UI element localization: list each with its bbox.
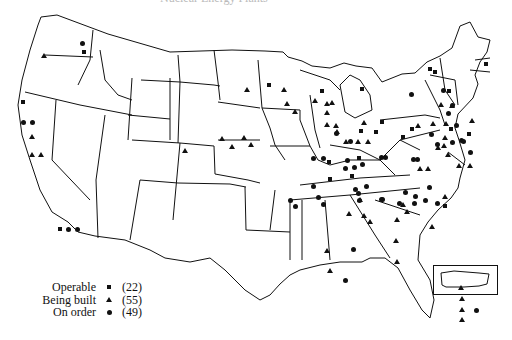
operable-marker: [328, 177, 332, 181]
operable-marker: [443, 204, 447, 208]
on-order-marker: [423, 198, 428, 203]
being-built-marker: [459, 296, 465, 301]
on-order-marker: [343, 278, 348, 283]
on-order-marker: [311, 156, 316, 161]
being-built-marker: [438, 102, 444, 107]
being-built-marker: [312, 98, 318, 103]
on-order-marker: [288, 198, 293, 203]
operable-marker: [327, 160, 331, 164]
on-order-marker: [75, 227, 80, 232]
on-order-marker: [357, 198, 362, 203]
on-order-marker: [413, 194, 418, 199]
legend-label: On order: [28, 306, 96, 319]
on-order-marker: [474, 308, 479, 313]
being-built-marker: [393, 238, 399, 243]
nuclear-plants-map: Nuclear Energy Plants: [0, 0, 512, 340]
on-order-marker: [334, 131, 339, 136]
operable-marker: [447, 89, 451, 93]
on-order-marker: [316, 195, 321, 200]
operable-marker: [433, 70, 437, 74]
being-built-marker: [442, 135, 448, 140]
being-built-marker: [229, 144, 235, 149]
on-order-marker: [446, 111, 451, 116]
operable-marker: [374, 130, 378, 134]
being-built-marker: [329, 100, 335, 105]
being-built-marker: [458, 285, 464, 290]
on-order-marker: [348, 139, 353, 144]
on-order-marker: [435, 142, 440, 147]
on-order-marker: [454, 123, 459, 128]
operable-marker: [82, 50, 86, 54]
puerto-rico-outline: [434, 266, 497, 294]
being-built-marker: [244, 87, 250, 92]
being-built-marker: [327, 268, 333, 273]
being-built-marker: [284, 101, 290, 106]
being-built-marker: [456, 163, 462, 168]
being-built-marker: [361, 120, 367, 125]
being-built-marker: [324, 110, 330, 115]
on-order-marker: [409, 92, 414, 97]
operable-marker: [357, 156, 361, 160]
on-order-marker: [30, 120, 35, 125]
operable-marker: [267, 83, 271, 87]
being-built-marker: [394, 259, 400, 264]
being-built-marker: [425, 166, 431, 171]
legend: Operable (22) Being built (55) On order …: [28, 281, 156, 319]
operable-marker: [320, 89, 324, 93]
being-built-marker: [292, 109, 298, 114]
being-built-marker: [429, 224, 435, 229]
being-built-marker: [467, 163, 473, 168]
operable-marker: [410, 127, 414, 131]
on-order-marker: [380, 197, 385, 202]
on-order-marker: [461, 139, 466, 144]
legend-count: (22): [122, 281, 156, 294]
on-order-marker: [435, 201, 440, 206]
operable-marker: [467, 132, 471, 136]
on-order-marker: [468, 150, 473, 155]
being-built-marker: [365, 139, 371, 144]
operable-marker: [428, 67, 432, 71]
operable-marker: [350, 174, 354, 178]
on-order-marker: [383, 155, 388, 160]
on-order-marker: [66, 227, 71, 232]
being-built-marker: [441, 143, 447, 148]
being-built-marker: [241, 135, 247, 140]
on-order-marker: [397, 201, 402, 206]
on-order-marker: [427, 185, 432, 190]
operable-marker: [401, 135, 405, 139]
being-built-marker: [430, 121, 436, 126]
being-built-marker: [41, 53, 47, 58]
on-order-marker: [415, 157, 420, 162]
on-order-marker: [351, 247, 356, 252]
on-order-marker: [321, 202, 326, 207]
being-built-marker: [443, 121, 449, 126]
operable-marker: [58, 227, 62, 231]
on-order-marker: [429, 132, 434, 137]
square-icon: [107, 285, 111, 289]
on-order-marker: [412, 201, 417, 206]
being-built-marker: [248, 142, 254, 147]
on-order-marker: [360, 162, 365, 167]
being-built-marker: [219, 136, 225, 141]
on-order-marker: [441, 88, 446, 93]
being-built-marker: [29, 152, 35, 157]
being-built-marker: [469, 118, 475, 123]
operable-marker: [21, 100, 25, 104]
being-built-marker: [361, 213, 367, 218]
on-order-marker: [293, 204, 298, 209]
legend-count: (49): [122, 306, 156, 319]
operable-marker: [484, 62, 488, 66]
being-built-marker: [417, 166, 423, 171]
on-order-marker: [364, 184, 369, 189]
being-built-marker: [394, 217, 400, 222]
being-built-marker: [367, 219, 373, 224]
being-built-marker: [404, 209, 410, 214]
legend-row-on-order: On order (49): [28, 306, 156, 319]
operable-marker: [360, 87, 364, 91]
triangle-icon: [106, 297, 112, 302]
being-built-marker: [442, 194, 448, 199]
on-order-marker: [450, 103, 455, 108]
legend-label: Operable: [28, 281, 96, 294]
being-built-marker: [281, 87, 287, 92]
being-built-marker: [445, 152, 451, 157]
